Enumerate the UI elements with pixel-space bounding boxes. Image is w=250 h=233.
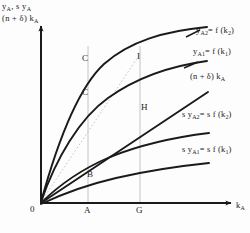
curve-label-saving-1: s yA1= s f (k1) xyxy=(182,145,232,155)
curve-label-production-2: yA2= f (k2) xyxy=(196,26,234,36)
y-axis-title: yA, s yA (n + δ) kA xyxy=(2,2,39,25)
curve-label-depreciation: (n + δ) kA xyxy=(190,72,225,82)
curve-label-saving-2: s yA2= s f (k2) xyxy=(182,110,232,120)
point-label-H: H xyxy=(141,103,148,112)
curve-label-production-1: yA1= f (k1) xyxy=(193,47,231,57)
curve-saving-1 xyxy=(41,163,209,204)
point-label-I: I xyxy=(137,52,140,61)
point-label-C-prime: C xyxy=(82,88,88,97)
x-tick-label-G: G xyxy=(136,206,143,215)
x-tick-label-A: A xyxy=(84,206,91,215)
origin-label: 0 xyxy=(30,205,35,214)
point-label-C: C xyxy=(82,54,88,63)
point-label-B: B xyxy=(87,170,93,179)
guide-ray-dotted xyxy=(41,54,140,202)
y-axis-title-line1: yA, s yA xyxy=(2,2,39,12)
figure-canvas: yA, s yA (n + δ) kA kA 0 A G C C I H B y… xyxy=(0,0,250,233)
x-axis-title: kA xyxy=(236,201,245,211)
y-axis-title-line2: (n + δ) kA xyxy=(2,14,39,24)
